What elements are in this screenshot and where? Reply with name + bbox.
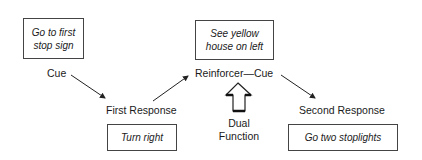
arrow-cue-to-first-response — [71, 75, 105, 98]
arrow-reinforcer-to-second-response — [281, 75, 315, 98]
arrows-layer — [0, 0, 422, 160]
arrow-first-response-to-reinforcer — [153, 76, 188, 101]
dual-function-up-arrow-icon — [226, 83, 251, 111]
